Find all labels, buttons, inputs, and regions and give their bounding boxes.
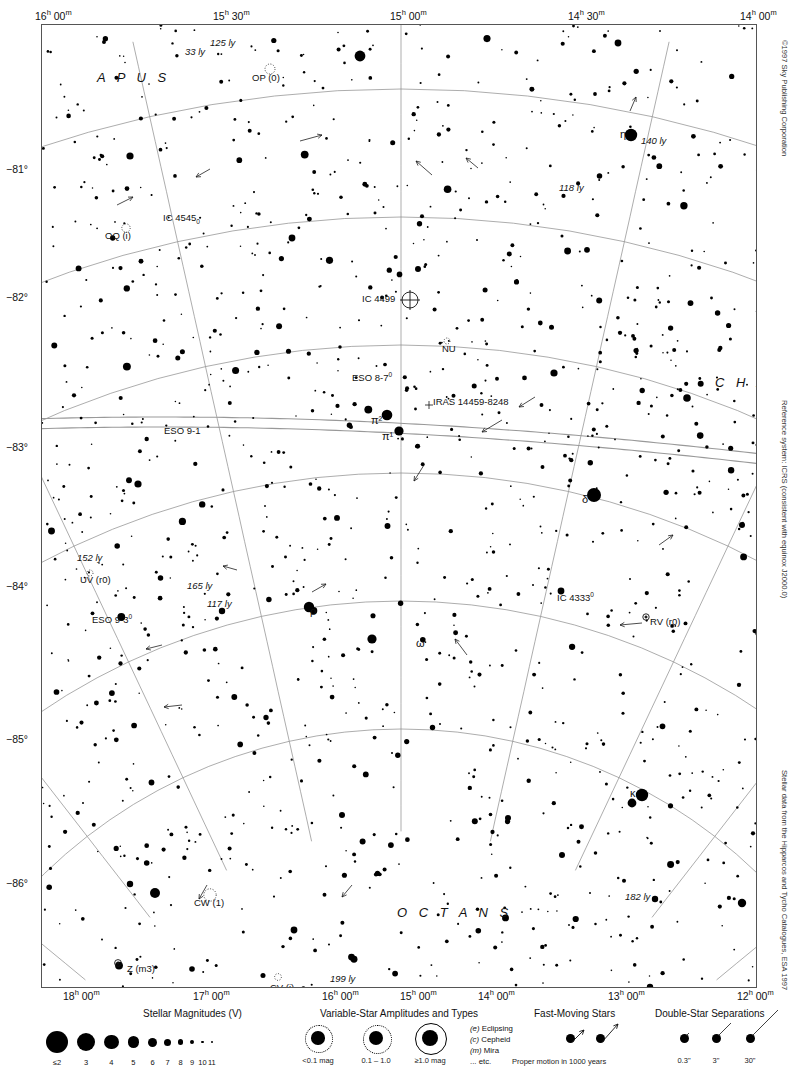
legend: 1027 Stellar Magnitudes (V) ≤23456789101… bbox=[0, 1006, 798, 1086]
bottom-ra-tick-1: 17h 00m bbox=[193, 988, 230, 1002]
magnitude-dot-8 bbox=[178, 1039, 183, 1044]
variable-type-name-0: Eclipsing bbox=[480, 1024, 513, 1033]
star-chart-frame: A P U SC H AO C T A N S125 ly33 lyOP (0)… bbox=[41, 24, 757, 988]
object-label-var-UV: UV (r0) bbox=[80, 574, 111, 585]
top-ra-tick-3: 14h 30m bbox=[568, 8, 605, 22]
variable-amplitude-label-0: <0.1 mag bbox=[292, 1056, 344, 1065]
label-superscript: 0 bbox=[590, 591, 594, 598]
magnitude-dot-10 bbox=[201, 1041, 204, 1044]
label-superscript: 0 bbox=[388, 371, 392, 378]
magnitude-dot-9 bbox=[190, 1040, 194, 1044]
variable-type-2: (m) Mira bbox=[470, 1046, 499, 1055]
object-label-var-Z: Z (m3) bbox=[127, 963, 155, 974]
starfield-svg bbox=[42, 25, 757, 988]
object-label-dist-118ly: 118 ly bbox=[559, 182, 584, 193]
object-label-dist-125ly: 125 ly bbox=[210, 37, 235, 48]
variable-type-code-2: (m) bbox=[470, 1046, 482, 1055]
magnitude-dot-5 bbox=[128, 1036, 140, 1048]
bottom-ra-tick-2: 16h 00m bbox=[322, 988, 359, 1002]
object-label-dist-199ly: 199 ly bbox=[330, 973, 355, 984]
bottom-ra-tick-0: 18h 00m bbox=[63, 988, 100, 1002]
object-label-pi1-star: π¹ bbox=[382, 430, 393, 442]
object-label-eso-9-1: ESO 9-1 bbox=[164, 425, 200, 436]
variable-type-0: (e) Eclipsing bbox=[470, 1024, 513, 1033]
magnitude-label-≤2: ≤2 bbox=[40, 1058, 74, 1067]
bottom-ra-tick-5: 13h 00m bbox=[608, 988, 645, 1002]
object-label-dist-165ly: 165 ly bbox=[187, 580, 212, 591]
variable-type-code-1: (c) bbox=[470, 1035, 479, 1044]
top-ra-tick-2: 15h 00m bbox=[390, 8, 427, 22]
magnitude-dot-11 bbox=[211, 1041, 213, 1043]
copyright-text: ©1997 Sky Publishing Corporation bbox=[780, 40, 789, 156]
dec-tick-2: −83° bbox=[6, 441, 28, 453]
object-label-eso-8-7: ESO 8-70 bbox=[352, 371, 392, 383]
variable-type-1: (c) Cepheid bbox=[470, 1035, 510, 1044]
constellation-label-cha: C H A bbox=[715, 375, 757, 390]
top-ra-tick-1: 15h 30m bbox=[213, 8, 250, 22]
object-label-var-OP: OP (0) bbox=[252, 72, 280, 83]
variable-amplitude-label-2: ≥1.0 mag bbox=[404, 1056, 456, 1065]
double-star-label-0: 0.3" bbox=[668, 1056, 700, 1065]
bottom-ra-tick-6: 12h 00m bbox=[737, 988, 774, 1002]
variable-type-name-3: ... etc. bbox=[470, 1057, 491, 1066]
variable-dot-0 bbox=[311, 1031, 325, 1045]
object-label-rho-star: ρ bbox=[310, 605, 316, 617]
bottom-ra-axis: 18h 00m17h 00m16h 00m15h 00m14h 00m13h 0… bbox=[0, 988, 798, 1004]
object-label-delta-star: δ bbox=[582, 493, 588, 505]
proper-motion-arrows-icon bbox=[550, 1018, 630, 1058]
magnitude-dot-3 bbox=[77, 1033, 95, 1051]
magnitude-dot-≤2 bbox=[46, 1031, 68, 1053]
magnitude-label-11: 11 bbox=[205, 1058, 219, 1067]
proper-motion-caption: Proper motion in 1000 years bbox=[512, 1057, 606, 1066]
label-subscript: 0 bbox=[196, 218, 200, 225]
dec-tick-0: −81° bbox=[6, 163, 28, 175]
object-label-ic-4333: IC 43330 bbox=[557, 591, 594, 603]
bottom-ra-tick-3: 15h 00m bbox=[400, 988, 437, 1002]
variable-amplitude-label-1: 0.1 – 1.0 bbox=[350, 1056, 402, 1065]
dec-tick-3: −84° bbox=[6, 580, 28, 592]
object-label-eso-9-3: ESO 9-30 bbox=[92, 613, 132, 625]
object-label-dist-117ly: 117 ly bbox=[207, 598, 232, 609]
object-label-dist-152ly: 152 ly bbox=[77, 552, 102, 563]
object-label-pi2-star: π² bbox=[371, 414, 382, 426]
magnitude-dot-6 bbox=[148, 1038, 157, 1047]
double-star-label-1: 3" bbox=[700, 1056, 732, 1065]
double-star-separation-line-2 bbox=[748, 1008, 788, 1042]
reference-system-text: Reference system: ICRS (consistent with … bbox=[780, 400, 789, 598]
magnitude-label-3: 3 bbox=[71, 1058, 101, 1067]
magnitude-dot-7 bbox=[164, 1039, 171, 1046]
object-label-var-RV: RV (r0) bbox=[650, 616, 680, 627]
object-label-eta-star: η bbox=[620, 128, 626, 140]
object-label-omega-star: ω bbox=[416, 637, 425, 649]
magnitude-dot-4 bbox=[104, 1035, 119, 1050]
constellation-label-octans: O C T A N S bbox=[397, 905, 512, 920]
object-label-var-OQ: OQ (i) bbox=[105, 230, 131, 241]
variable-type-3: ... etc. bbox=[470, 1057, 491, 1066]
dec-tick-5: −86° bbox=[6, 877, 28, 889]
variable-type-code-0: (e) bbox=[470, 1024, 480, 1033]
object-label-dist-33ly: 33 ly bbox=[185, 46, 205, 57]
object-label-ic-4499: IC 4499 bbox=[362, 293, 395, 304]
object-label-ic-4545: IC 45450 bbox=[163, 212, 200, 225]
variables-legend-title: Variable-Star Amplitudes and Types bbox=[320, 1008, 478, 1019]
declination-axis: −81°−82°−83°−84°−85°−86° bbox=[0, 0, 46, 1086]
bottom-ra-tick-4: 14h 00m bbox=[478, 988, 515, 1002]
object-label-dist-182ly: 182 ly bbox=[625, 891, 650, 902]
top-ra-axis: 16h 00m15h 30m15h 00m14h 30m14h 00m bbox=[0, 8, 798, 24]
variable-type-name-1: Cepheid bbox=[479, 1035, 510, 1044]
object-label-var-NU: NU bbox=[442, 343, 456, 354]
variable-type-name-2: Mira bbox=[482, 1046, 499, 1055]
object-label-var-CW: CW (1) bbox=[194, 897, 224, 908]
dec-tick-1: −82° bbox=[6, 291, 28, 303]
dec-tick-4: −85° bbox=[6, 733, 28, 745]
object-label-dist-140ly: 140 ly bbox=[641, 135, 666, 146]
data-source-text: Stellar data from the Hipparcos and Tych… bbox=[780, 770, 789, 990]
label-superscript: 0 bbox=[128, 613, 132, 620]
top-ra-tick-4: 14h 00m bbox=[740, 8, 777, 22]
object-label-kappa-star: κ bbox=[630, 787, 636, 799]
object-label-iras-source: IRAS 14459-8248 bbox=[433, 396, 509, 407]
double-star-label-2: 30" bbox=[734, 1056, 766, 1065]
constellation-label-apus: A P U S bbox=[97, 70, 170, 85]
magnitudes-legend-title: Stellar Magnitudes (V) bbox=[143, 1008, 242, 1019]
